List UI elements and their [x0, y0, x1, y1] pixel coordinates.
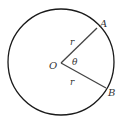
- label-point-b: B: [107, 87, 115, 98]
- label-angle-theta: θ: [72, 57, 78, 67]
- circle-sector-diagram: A B O r θ r: [0, 0, 125, 122]
- label-radius-lower: r: [70, 77, 75, 87]
- label-radius-upper: r: [70, 37, 75, 47]
- radius-ob: [61, 63, 106, 88]
- circle: [8, 9, 114, 115]
- radius-oa: [61, 28, 97, 63]
- label-center-o: O: [49, 60, 57, 71]
- label-point-a: A: [99, 18, 107, 29]
